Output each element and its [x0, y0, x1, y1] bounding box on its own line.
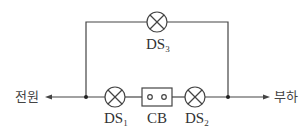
wire-branch-left: [86, 22, 147, 97]
circuit-diagram: 전원 부하 DS3 DS1 CB DS2: [0, 0, 308, 133]
junction-right-dot: [226, 95, 230, 99]
ds3-label: DS3: [146, 37, 170, 54]
ds1-label: DS1: [104, 111, 128, 128]
load-label: 부하: [274, 90, 298, 103]
ds1-label-sub: 1: [123, 118, 128, 128]
circuit-breaker-icon: [142, 88, 172, 106]
ds3-label-sub: 3: [165, 44, 170, 54]
ds1-label-prefix: DS: [104, 110, 123, 126]
wire-branch-right: [167, 22, 228, 97]
load-arrow-icon: [263, 95, 270, 100]
ds2-label: DS2: [185, 111, 209, 128]
source-arrow-icon: [45, 95, 52, 100]
lamp-ds2-icon: [185, 87, 205, 107]
ds2-label-prefix: DS: [185, 110, 204, 126]
lamp-ds3-icon: [147, 12, 167, 32]
ds3-label-prefix: DS: [146, 36, 165, 52]
cb-label: CB: [147, 111, 167, 126]
source-label: 전원: [15, 90, 39, 103]
lamp-ds1-icon: [105, 87, 125, 107]
ds2-label-sub: 2: [204, 118, 209, 128]
junction-left-dot: [84, 95, 88, 99]
